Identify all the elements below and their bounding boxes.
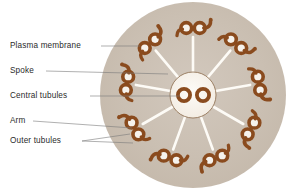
label-outer-tubules: Outer tubules — [10, 136, 61, 145]
label-central-tubules: Central tubules — [10, 91, 67, 100]
dynein-arm-inner — [141, 51, 143, 60]
label-plasma-membrane: Plasma membrane — [10, 41, 81, 50]
cilium-cross-section-figure: Plasma membraneSpokeCentral tubulesArmOu… — [0, 0, 287, 191]
diagram-canvas: Plasma membraneSpokeCentral tubulesArmOu… — [0, 0, 287, 191]
labels-group: Plasma membraneSpokeCentral tubulesArmOu… — [10, 41, 81, 145]
label-spoke: Spoke — [10, 66, 34, 75]
outer-tubule — [252, 71, 263, 82]
label-arm: Arm — [10, 116, 25, 125]
